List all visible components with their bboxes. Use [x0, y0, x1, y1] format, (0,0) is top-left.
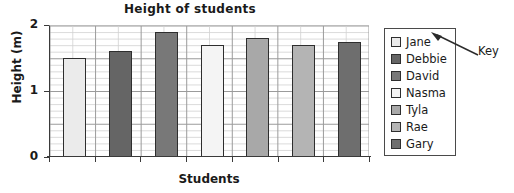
- x-axis-label: Students: [49, 172, 369, 186]
- legend-item-nasma: Nasma: [391, 85, 446, 101]
- bar-jane: [63, 58, 86, 157]
- bar-debbie: [109, 51, 132, 157]
- key-arrow-icon: [428, 30, 482, 60]
- bar-rae: [292, 45, 315, 157]
- x-tick-mark: [278, 157, 279, 162]
- x-tick-mark: [369, 157, 370, 162]
- bar-david: [155, 32, 178, 157]
- legend-item-tyla: Tyla: [391, 102, 428, 118]
- y-tick-label: 0: [8, 149, 38, 163]
- bar-gary: [338, 42, 361, 158]
- x-tick-mark: [323, 157, 324, 162]
- bar-nasma: [201, 45, 224, 157]
- legend-label: David: [406, 69, 439, 83]
- y-tick-mark: [44, 25, 49, 26]
- bar-chart-figure: Height of students Height (m) 012 Studen…: [0, 0, 514, 193]
- key-annotation-label: Key: [478, 44, 499, 58]
- legend-swatch-icon: [391, 122, 401, 132]
- x-tick-mark: [186, 157, 187, 162]
- legend-label: Nasma: [406, 86, 446, 100]
- legend-swatch-icon: [391, 105, 401, 115]
- legend-label: Tyla: [406, 103, 428, 117]
- bar-tyla: [246, 38, 269, 157]
- legend-item-david: David: [391, 68, 439, 84]
- y-tick-mark: [44, 91, 49, 92]
- y-tick-label: 2: [8, 17, 38, 31]
- x-tick-mark: [232, 157, 233, 162]
- legend-swatch-icon: [391, 71, 401, 81]
- x-tick-mark: [95, 157, 96, 162]
- chart-title: Height of students: [0, 2, 380, 16]
- legend-swatch-icon: [391, 37, 401, 47]
- y-tick-label: 1: [8, 83, 38, 97]
- legend-label: Rae: [406, 120, 428, 134]
- plot-area: [49, 25, 369, 157]
- legend-swatch-icon: [391, 139, 401, 149]
- legend-swatch-icon: [391, 88, 401, 98]
- legend-item-gary: Gary: [391, 136, 434, 152]
- legend-item-jane: Jane: [391, 34, 431, 50]
- legend-label: Gary: [406, 137, 434, 151]
- x-tick-mark: [140, 157, 141, 162]
- legend-swatch-icon: [391, 54, 401, 64]
- legend-item-rae: Rae: [391, 119, 428, 135]
- x-tick-mark: [49, 157, 50, 162]
